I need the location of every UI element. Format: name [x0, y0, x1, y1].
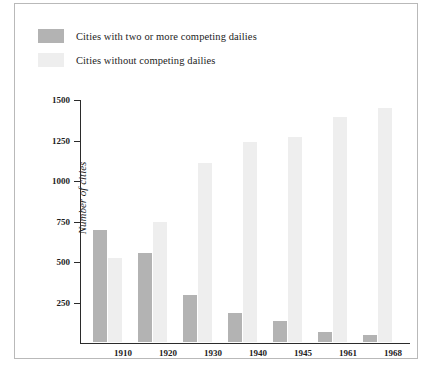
y-tick-mark — [74, 141, 80, 142]
y-tick-label: 500 — [57, 257, 71, 267]
plot-area: Number of cities 250500750100012501500 1… — [80, 100, 410, 343]
bar — [138, 253, 152, 342]
bar — [153, 222, 167, 342]
y-tick-mark — [74, 303, 80, 304]
bar — [318, 332, 332, 342]
legend-swatch-competing-icon — [38, 29, 64, 43]
legend-label-competing: Cities with two or more competing dailie… — [76, 31, 257, 42]
y-axis-title: Number of cities — [76, 138, 88, 258]
y-tick-mark — [74, 222, 80, 223]
chart-legend: Cities with two or more competing dailie… — [38, 24, 368, 72]
bar — [378, 108, 392, 342]
bar — [198, 163, 212, 342]
bar — [243, 142, 257, 342]
legend-swatch-noncompeting-icon — [38, 53, 64, 67]
y-tick-mark — [74, 100, 80, 101]
x-axis-line — [80, 343, 410, 344]
chart-page: Cities with two or more competing dailie… — [0, 0, 436, 388]
bar — [108, 258, 122, 342]
y-tick-mark — [74, 262, 80, 263]
y-tick-label: 250 — [57, 298, 71, 308]
legend-entry-noncompeting: Cities without competing dailies — [38, 48, 368, 72]
bar — [363, 335, 377, 342]
y-tick-label: 1250 — [52, 136, 70, 146]
legend-entry-competing: Cities with two or more competing dailie… — [38, 24, 368, 48]
bar — [273, 321, 287, 342]
legend-label-noncompeting: Cities without competing dailies — [76, 55, 215, 66]
bar — [228, 313, 242, 342]
y-tick-label: 1500 — [52, 95, 70, 105]
y-tick-mark — [74, 181, 80, 182]
x-tick-label: 1968 — [363, 348, 423, 358]
bar — [288, 137, 302, 342]
bar — [333, 117, 347, 342]
y-tick-label: 750 — [57, 217, 71, 227]
y-axis-line — [80, 100, 81, 344]
bar — [183, 295, 197, 342]
y-tick-label: 1000 — [52, 176, 70, 186]
bar — [93, 230, 107, 342]
